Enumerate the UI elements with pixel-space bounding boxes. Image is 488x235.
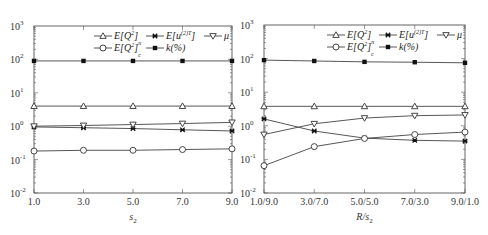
y-tick-base: 10 <box>240 20 250 31</box>
legend-label: μ <box>456 29 462 40</box>
x-axis-label-subscript: 2 <box>369 217 373 225</box>
y-tick-base: 10 <box>240 54 250 65</box>
legend-entry-eq2c: E[Q2]c <box>94 42 141 58</box>
data-point-marker <box>229 146 235 152</box>
legend-entry-mu: μ <box>437 29 462 40</box>
data-point-marker <box>312 59 316 63</box>
y-tick-base: 10 <box>240 121 250 132</box>
data-point-marker <box>131 59 135 63</box>
y-tick-exponent: 3 <box>20 19 24 27</box>
data-point-marker <box>413 60 417 64</box>
legend-marker <box>153 46 157 50</box>
data-point-marker <box>462 129 468 135</box>
legend-label: E[Q2]c <box>346 41 374 57</box>
x-tick-label: 9.0/1.0 <box>451 196 479 207</box>
y-tick-base: 10 <box>240 87 250 98</box>
y-tick-label: 103 <box>10 19 24 32</box>
legend-marker <box>386 45 390 49</box>
x-tick-label: 5.0 <box>127 196 140 207</box>
series-triangle-up <box>261 103 468 109</box>
chart-panel-1: 10310210110010-110-21.03.05.07.09.0s2E[Q… <box>10 19 238 225</box>
y-tick-label: 10-2 <box>10 186 26 199</box>
data-point-marker <box>32 59 36 63</box>
legend-label: k(%) <box>166 42 186 54</box>
data-point-marker <box>311 144 317 150</box>
data-point-marker <box>312 129 317 133</box>
y-tick-base: 10 <box>240 154 250 165</box>
data-point-marker <box>261 132 267 138</box>
legend-entry-mu: μ <box>204 30 229 41</box>
legend-entry-k: k(%) <box>379 41 419 53</box>
y-tick-exponent: -1 <box>20 153 26 161</box>
y-tick-exponent: 1 <box>250 85 254 93</box>
data-point-marker <box>180 59 184 63</box>
y-tick-exponent: -1 <box>250 152 256 160</box>
legend-label: E[u(2)T] <box>398 29 428 40</box>
y-tick-label: 103 <box>240 18 254 31</box>
data-point-marker <box>81 147 87 153</box>
x-tick-label: 9.0 <box>226 196 239 207</box>
y-tick-exponent: 3 <box>250 18 254 26</box>
data-point-marker <box>261 163 267 169</box>
data-point-marker <box>180 147 186 153</box>
legend: E[Q2]nE[u(2)T]μE[Q2]ck(%) <box>327 29 462 57</box>
x-tick-label: 1.0 <box>28 196 41 207</box>
series-circle <box>31 146 235 154</box>
legend-marker <box>333 44 339 50</box>
legend-marker <box>386 33 391 37</box>
legend-label: E[Q2]c <box>113 42 141 58</box>
legend-label: E[u(2)T] <box>165 30 195 41</box>
y-tick-exponent: 0 <box>20 119 24 127</box>
legend-entry-eu2t: E[u(2)T] <box>146 30 195 41</box>
figure-canvas: 10310210110010-110-21.03.05.07.09.0s2E[Q… <box>0 0 488 235</box>
data-point-marker <box>230 59 234 63</box>
y-tick-exponent: -2 <box>20 186 26 194</box>
legend-marker <box>100 45 106 51</box>
legend-label: k(%) <box>399 41 419 53</box>
x-axis-label: R/s2 <box>355 211 373 225</box>
x-tick-label: 7.0 <box>176 196 189 207</box>
y-tick-label: 10-1 <box>10 153 26 166</box>
y-tick-label: 100 <box>240 119 254 132</box>
y-tick-label: 101 <box>10 86 24 99</box>
chart-panel-2: 10310210110010-110-21.0/9.03.0/7.05.0/5.… <box>240 18 479 225</box>
plot-frame <box>34 26 232 193</box>
x-tick-label: 1.0/9.0 <box>250 196 278 207</box>
x-tick-label: 5.0/5.0 <box>351 196 379 207</box>
y-tick-label: 102 <box>240 52 254 65</box>
y-tick-base: 10 <box>10 155 20 166</box>
series-filled-square <box>32 59 234 63</box>
data-point-marker <box>180 128 185 132</box>
data-point-marker <box>362 135 368 141</box>
y-tick-exponent: 1 <box>20 86 24 94</box>
legend-label: μ <box>223 30 229 41</box>
y-tick-base: 10 <box>240 188 250 199</box>
legend: E[Q2]nE[u(2)T]μE[Q2]ck(%) <box>94 30 229 58</box>
data-point-marker <box>463 61 467 65</box>
y-tick-exponent: 0 <box>250 119 254 127</box>
x-axis-label-subscript: 2 <box>133 217 137 225</box>
y-tick-label: 101 <box>240 85 254 98</box>
y-tick-label: 100 <box>10 119 24 132</box>
series-circle <box>261 129 468 169</box>
y-tick-base: 10 <box>10 21 20 32</box>
data-point-marker <box>130 147 136 153</box>
y-tick-exponent: -2 <box>250 186 256 194</box>
legend-entry-eq2c: E[Q2]c <box>327 41 374 57</box>
legend-entry-eu2t: E[u(2)T] <box>379 29 428 40</box>
y-tick-base: 10 <box>10 54 20 65</box>
y-tick-label: 102 <box>10 52 24 65</box>
data-point-marker <box>362 60 366 64</box>
y-tick-base: 10 <box>10 188 20 199</box>
data-point-marker <box>81 59 85 63</box>
data-point-marker <box>31 148 37 154</box>
series-triangle-down <box>31 120 235 129</box>
x-axis-label: s2 <box>129 211 137 225</box>
legend-marker <box>153 34 158 38</box>
data-point-marker <box>412 138 417 142</box>
y-tick-base: 10 <box>10 121 20 132</box>
y-tick-base: 10 <box>10 88 20 99</box>
x-tick-label: 7.0/3.0 <box>401 196 429 207</box>
data-point-marker <box>262 58 266 62</box>
y-tick-exponent: 2 <box>20 52 24 60</box>
